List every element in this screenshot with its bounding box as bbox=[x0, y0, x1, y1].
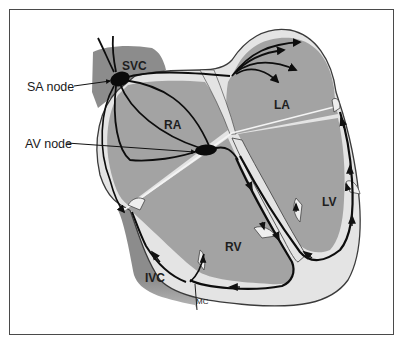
label-sa-node: SA node bbox=[27, 80, 74, 94]
label-ivc: IVC bbox=[145, 271, 165, 285]
label-la: LA bbox=[274, 98, 290, 112]
label-rv: RV bbox=[225, 240, 241, 254]
label-av-node: AV node bbox=[25, 137, 72, 151]
label-svc: SVC bbox=[122, 59, 147, 73]
heart-diagram: SVC RA LA LV RV IVC MC SA node AV node bbox=[0, 0, 404, 341]
label-lv: LV bbox=[322, 195, 336, 209]
label-mc: MC bbox=[196, 297, 209, 306]
label-ra: RA bbox=[164, 118, 182, 132]
